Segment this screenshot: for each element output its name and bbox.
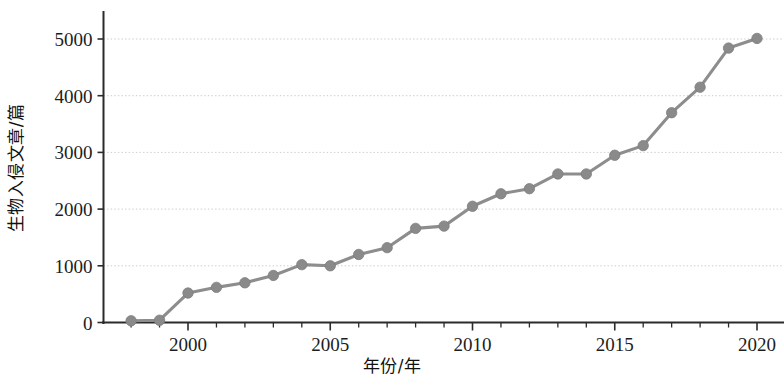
data-point-marker — [154, 315, 164, 325]
data-point-marker — [638, 140, 648, 150]
data-markers-group — [126, 33, 762, 326]
x-tick-label: 2015 — [596, 334, 634, 355]
data-point-marker — [695, 82, 705, 92]
y-axis-title: 生物入侵文章/篇 — [6, 104, 26, 233]
y-tick-label: 5000 — [55, 29, 93, 50]
data-point-marker — [752, 33, 762, 43]
data-point-marker — [268, 270, 278, 280]
y-tick-label: 2000 — [55, 199, 93, 220]
x-axis-ticks-group: 20002005201020152020 — [131, 323, 776, 355]
data-point-marker — [666, 108, 676, 118]
data-point-marker — [581, 169, 591, 179]
y-tick-label: 4000 — [55, 86, 93, 107]
x-tick-label: 2000 — [169, 334, 207, 355]
x-tick-label: 2010 — [454, 334, 492, 355]
x-tick-label: 2020 — [738, 334, 776, 355]
data-point-marker — [325, 261, 335, 271]
y-tick-label: 3000 — [55, 142, 93, 163]
data-line — [131, 38, 757, 320]
data-point-marker — [610, 150, 620, 160]
gridlines-group — [104, 39, 784, 266]
data-point-marker — [439, 221, 449, 231]
y-tick-label: 1000 — [55, 256, 93, 277]
data-point-marker — [297, 259, 307, 269]
data-point-marker — [354, 249, 364, 259]
data-point-marker — [211, 282, 221, 292]
data-point-marker — [467, 201, 477, 211]
data-point-marker — [382, 242, 392, 252]
data-point-marker — [553, 169, 563, 179]
y-axis-ticks-group: 010002000300040005000 — [55, 29, 104, 334]
line-chart-svg: 010002000300040005000 200020052010201520… — [0, 0, 784, 384]
y-tick-label: 0 — [83, 313, 93, 334]
data-point-marker — [723, 43, 733, 53]
data-point-marker — [496, 189, 506, 199]
chart-figure: 010002000300040005000 200020052010201520… — [0, 0, 784, 384]
data-point-marker — [410, 223, 420, 233]
data-point-marker — [126, 316, 136, 326]
x-tick-label: 2005 — [311, 334, 349, 355]
data-point-marker — [183, 288, 193, 298]
x-axis-title: 年份/年 — [363, 356, 422, 376]
data-point-marker — [524, 183, 534, 193]
data-point-marker — [240, 278, 250, 288]
